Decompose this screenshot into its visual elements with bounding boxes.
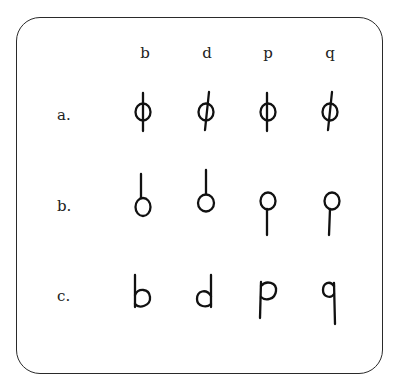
glyph-c-b-icon xyxy=(131,273,157,313)
row-label-a: a. xyxy=(57,108,71,123)
row-label-c: c. xyxy=(57,289,70,304)
column-header-d: d xyxy=(202,46,212,61)
glyph-c-d-icon xyxy=(194,273,220,313)
column-header-b: b xyxy=(140,46,150,61)
glyph-a-d-icon xyxy=(195,90,219,134)
glyph-c-q-icon xyxy=(320,280,346,330)
glyph-c-p-icon xyxy=(256,280,282,324)
glyph-b-p-icon xyxy=(256,191,282,243)
glyph-b-b-icon xyxy=(131,171,157,223)
glyph-b-d-icon xyxy=(193,168,219,220)
column-header-p: p xyxy=(263,46,273,61)
glyph-a-b-icon xyxy=(132,90,156,134)
glyph-a-p-icon xyxy=(256,90,280,134)
column-header-q: q xyxy=(325,46,335,61)
row-label-b: b. xyxy=(57,199,71,214)
glyph-b-q-icon xyxy=(320,191,346,243)
glyph-a-q-icon xyxy=(318,90,342,134)
